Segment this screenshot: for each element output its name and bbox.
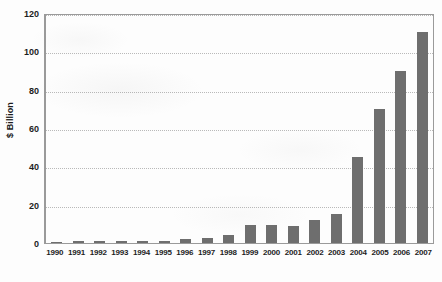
- x-axis-tick-1995: 1995: [152, 248, 174, 257]
- x-axis-tick-2004: 2004: [347, 248, 369, 257]
- y-axis-tick-80: 80: [29, 86, 39, 96]
- bar-slot-1993: [111, 15, 133, 243]
- bar-slot-2007: [412, 15, 434, 243]
- bar-slot-1991: [68, 15, 90, 243]
- bar-series: [46, 15, 433, 243]
- bar-2002: [309, 220, 320, 243]
- bar-slot-1998: [218, 15, 240, 243]
- y-axis-tick-20: 20: [29, 201, 39, 211]
- bar-1992: [94, 241, 105, 243]
- x-axis-tick-2000: 2000: [261, 248, 283, 257]
- bar-slot-1995: [154, 15, 176, 243]
- y-axis-tick-0: 0: [34, 239, 39, 249]
- x-axis-tick-1992: 1992: [87, 248, 109, 257]
- bar-2006: [395, 71, 406, 244]
- bar-1990: [51, 242, 62, 243]
- x-axis-tick-2007: 2007: [412, 248, 434, 257]
- bar-slot-1996: [175, 15, 197, 243]
- bar-slot-1997: [197, 15, 219, 243]
- x-axis-tick-1998: 1998: [217, 248, 239, 257]
- bar-2007: [417, 32, 428, 243]
- bar-slot-1999: [240, 15, 262, 243]
- bar-1991: [73, 241, 84, 243]
- bar-1999: [245, 225, 256, 243]
- bar-slot-1992: [89, 15, 111, 243]
- y-axis-tick-labels: 020406080100120: [16, 14, 42, 244]
- bar-chart: $ Billion 020406080100120 19901991199219…: [0, 0, 442, 282]
- x-axis-tick-2005: 2005: [369, 248, 391, 257]
- bar-slot-2005: [369, 15, 391, 243]
- plot-area: [44, 14, 434, 244]
- x-axis-tick-2003: 2003: [326, 248, 348, 257]
- x-axis-tick-2006: 2006: [391, 248, 413, 257]
- x-axis-tick-1993: 1993: [109, 248, 131, 257]
- bar-2000: [266, 225, 277, 243]
- x-axis-tick-2001: 2001: [282, 248, 304, 257]
- bar-2003: [331, 214, 342, 243]
- y-axis-title-label: $ Billion: [5, 102, 15, 138]
- x-axis-tick-1994: 1994: [131, 248, 153, 257]
- bar-1994: [137, 241, 148, 243]
- bar-slot-2000: [261, 15, 283, 243]
- bar-1993: [116, 241, 127, 243]
- y-axis-tick-120: 120: [24, 9, 39, 19]
- bar-2005: [374, 109, 385, 243]
- bar-slot-2003: [326, 15, 348, 243]
- y-axis-tick-40: 40: [29, 162, 39, 172]
- bar-1996: [180, 239, 191, 243]
- bar-slot-2006: [390, 15, 412, 243]
- bar-slot-2001: [283, 15, 305, 243]
- y-axis-tick-100: 100: [24, 47, 39, 57]
- bar-slot-2004: [347, 15, 369, 243]
- x-axis-tick-labels: 1990199119921993199419951996199719981999…: [44, 248, 434, 257]
- bar-slot-1994: [132, 15, 154, 243]
- bar-1998: [223, 235, 234, 243]
- bar-slot-2002: [304, 15, 326, 243]
- y-axis-tick-60: 60: [29, 124, 39, 134]
- bar-2004: [352, 157, 363, 243]
- bar-1997: [202, 238, 213, 243]
- bar-2001: [288, 226, 299, 243]
- bar-1995: [159, 241, 170, 243]
- x-axis-tick-1990: 1990: [44, 248, 66, 257]
- x-axis-tick-1991: 1991: [66, 248, 88, 257]
- x-axis-tick-2002: 2002: [304, 248, 326, 257]
- x-axis-tick-1997: 1997: [196, 248, 218, 257]
- x-axis-tick-1996: 1996: [174, 248, 196, 257]
- x-axis-tick-1999: 1999: [239, 248, 261, 257]
- bar-slot-1990: [46, 15, 68, 243]
